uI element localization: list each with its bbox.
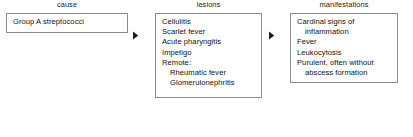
box-manifestations-line-3: Fever <box>297 37 391 47</box>
box-manifestations: Cardinal signs of inflammation Fever Leu… <box>290 13 398 83</box>
box-manifestations-line-5: Purulent, often without <box>297 58 391 68</box>
box-manifestations-line-4: Leukocytosis <box>297 48 391 58</box>
box-lesions-line-5: Remote: <box>162 58 255 68</box>
box-lesions-line-1: Cellulitis <box>162 17 255 27</box>
diagram-column-lesions: lesions Cellulitis Scarlet fever Acute p… <box>155 0 262 98</box>
box-lesions-line-7: Glomerulonephritis <box>162 78 255 88</box>
box-cause: Group A streptococci <box>6 13 128 33</box>
box-manifestations-line-1: Cardinal signs of <box>297 17 391 27</box>
diagram-column-manifestations: manifestations Cardinal signs of inflamm… <box>290 0 398 83</box>
column-label-cause: cause <box>6 0 128 9</box>
box-lesions-line-2: Scarlet fever <box>162 27 255 37</box>
box-lesions: Cellulitis Scarlet fever Acute pharyngit… <box>155 13 262 98</box>
box-manifestations-line-6: abscess formation <box>297 68 391 78</box>
box-lesions-line-4: Impetigo <box>162 48 255 58</box>
column-label-lesions: lesions <box>155 0 262 9</box>
column-label-manifestations: manifestations <box>290 0 398 9</box>
right-arrowhead-icon <box>132 31 139 40</box>
flowchart-diagram: cause Group A streptococci lesions Cellu… <box>0 0 413 137</box>
diagram-column-cause: cause Group A streptococci <box>6 0 128 33</box>
box-manifestations-line-2: inflammation <box>297 27 391 37</box>
box-lesions-line-3: Acute pharyngitis <box>162 37 255 47</box>
box-lesions-line-6: Rheumatic fever <box>162 68 255 78</box>
right-arrowhead-icon <box>268 31 275 40</box>
box-cause-line-1: Group A streptococci <box>13 17 84 27</box>
